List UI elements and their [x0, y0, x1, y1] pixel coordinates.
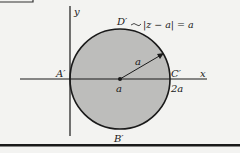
x-axis-label: x — [200, 68, 206, 79]
circle-diagram: y x D′ |z − a| = a A′ C′ 2a a a B′ — [0, 0, 240, 153]
leader-line — [131, 24, 141, 26]
point-c-value: 2a — [170, 83, 183, 94]
circle-equation: |z − a| = a — [143, 19, 194, 31]
y-axis-label: y — [73, 6, 80, 17]
point-a-label: A′ — [55, 68, 66, 79]
radius-label: a — [135, 56, 141, 67]
center-point — [118, 77, 122, 81]
point-c-label: C′ — [171, 68, 182, 79]
point-b-label: B′ — [113, 133, 124, 144]
curve-label: D′ — [116, 16, 128, 27]
center-label: a — [116, 83, 122, 94]
frame-fragment — [0, 0, 33, 2]
bottom-rule — [0, 144, 240, 147]
